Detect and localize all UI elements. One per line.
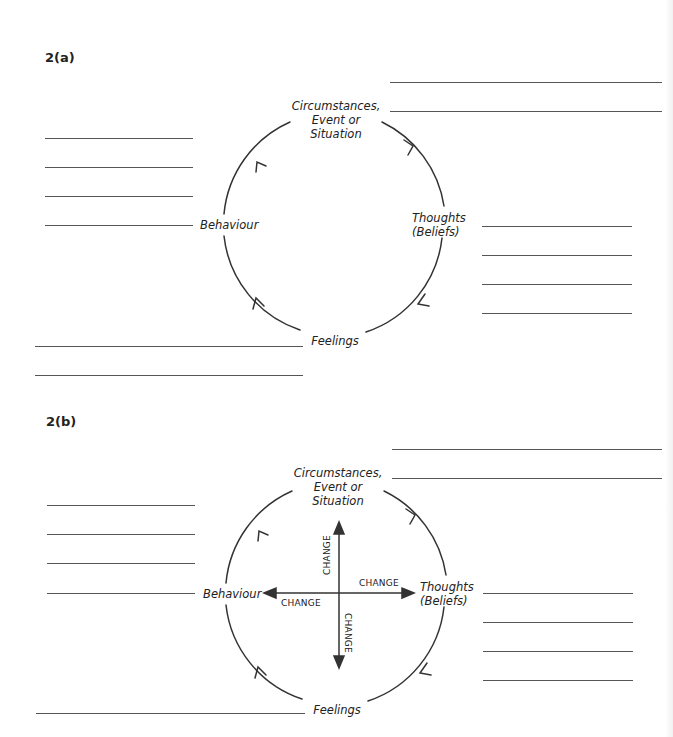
answer-line-b-feelings-1[interactable] <box>36 713 305 714</box>
node-feelings-b: Feelings <box>307 703 367 717</box>
change-label-right: CHANGE <box>359 578 399 588</box>
answer-line-b-thoughts-3[interactable] <box>483 651 633 652</box>
answer-line-b-thoughts-2[interactable] <box>483 622 633 623</box>
node-thoughts-line1: Thoughts <box>420 580 480 594</box>
change-label-up: CHANGE <box>322 530 332 580</box>
node-thoughts-line2: (Beliefs) <box>420 594 480 608</box>
arrowhead-up-icon <box>334 522 344 534</box>
answer-line-b-thoughts-1[interactable] <box>483 593 633 594</box>
node-circumstances-line3: Situation <box>288 494 388 508</box>
node-circumstances-line2: Event or <box>288 480 388 494</box>
answer-line-b-behaviour-2[interactable] <box>47 534 195 535</box>
change-label-left: CHANGE <box>281 598 321 608</box>
answer-line-b-thoughts-4[interactable] <box>483 680 633 681</box>
node-behaviour-b: Behaviour <box>203 587 267 601</box>
arrowhead-right-icon <box>402 588 414 598</box>
answer-line-b-behaviour-4[interactable] <box>47 593 195 594</box>
node-circumstances-line1: Circumstances, <box>288 466 388 480</box>
diagram-2b-cycle <box>0 0 673 737</box>
node-circumstances-b: Circumstances, Event or Situation <box>288 466 388 508</box>
change-label-down: CHANGE <box>343 608 353 658</box>
answer-line-b-behaviour-3[interactable] <box>47 563 195 564</box>
answer-line-b-circumstances-1[interactable] <box>392 449 662 450</box>
answer-line-b-behaviour-1[interactable] <box>47 505 195 506</box>
answer-line-b-circumstances-2[interactable] <box>392 478 662 479</box>
node-thoughts-b: Thoughts (Beliefs) <box>420 580 480 608</box>
